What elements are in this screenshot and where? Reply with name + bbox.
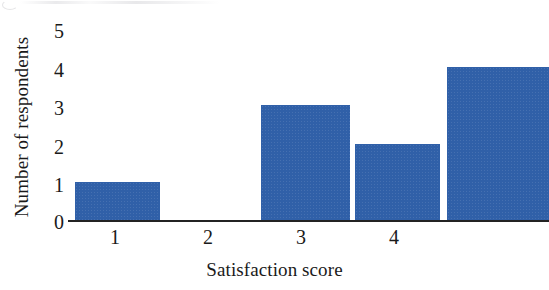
bar-category-5: [447, 67, 549, 221]
y-tick-label-1: 1: [38, 175, 64, 195]
y-axis-title: Number of respondents: [9, 12, 35, 242]
y-tick-label-2: 2: [38, 137, 64, 157]
bar-category-4: [355, 144, 440, 221]
plot-area: [68, 20, 549, 221]
scan-artifact-band: [20, 1, 220, 4]
y-tick-label-0: 0: [38, 212, 64, 232]
bar-category-3: [261, 105, 350, 221]
x-tick-label-4: 4: [374, 226, 414, 248]
y-tick-label-5: 5: [38, 21, 64, 41]
x-axis-title: Satisfaction score: [0, 258, 549, 282]
bar-category-1: [75, 182, 160, 221]
scan-artifact-icon: [2, 0, 18, 10]
bar-chart-figure: Number of respondents 5 4 3 2 1 0 1 2 3 …: [0, 0, 549, 290]
y-tick-label-4: 4: [38, 60, 64, 80]
x-tick-label-3: 3: [281, 226, 321, 248]
x-tick-label-1: 1: [95, 226, 135, 248]
y-tick-label-3: 3: [38, 98, 64, 118]
x-tick-label-2: 2: [188, 226, 228, 248]
x-axis-line: [68, 220, 549, 222]
